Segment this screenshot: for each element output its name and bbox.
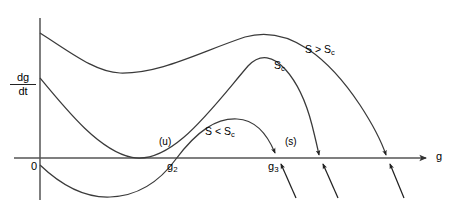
curve-label-sc-sub: c — [281, 64, 285, 73]
label-g2-sub: 2 — [173, 165, 177, 174]
flow-arrows — [281, 164, 404, 198]
curve-label-s-less-sc-sub: c — [231, 130, 235, 139]
curve-label-s-less-sc-text: S < S — [205, 125, 231, 137]
axis-group — [14, 18, 426, 200]
y-axis-label-denominator: dt — [10, 86, 36, 98]
label-g3: g3 — [268, 161, 279, 174]
y-axis-label-numerator: dg — [10, 72, 36, 84]
flow-arrow-up-3 — [390, 164, 404, 198]
label-stable-marker: (s) — [285, 137, 297, 147]
flow-arrow-up-1 — [281, 164, 296, 198]
plot-svg — [0, 0, 453, 209]
y-axis-label: dg dt — [10, 72, 36, 97]
flow-arrow-up-2 — [323, 164, 338, 198]
figure-canvas: dg dt 0 g S > Sc Sc S < Sc (u) g2 (s) g3 — [0, 0, 453, 209]
curve-label-sc: Sc — [274, 60, 285, 73]
curve-label-s-greater-sc: S > Sc — [305, 44, 335, 57]
label-g2: g2 — [167, 161, 178, 174]
curve-label-s-less-sc: S < Sc — [205, 126, 235, 139]
x-axis-label: g — [436, 151, 442, 162]
curve-label-sc-text: S — [274, 59, 281, 71]
label-unstable-marker: (u) — [159, 137, 171, 147]
label-g3-sub: 3 — [274, 165, 278, 174]
curve-label-s-greater-sc-sub: c — [331, 48, 335, 57]
origin-label: 0 — [31, 161, 37, 172]
curve-label-s-greater-sc-text: S > S — [305, 43, 331, 55]
